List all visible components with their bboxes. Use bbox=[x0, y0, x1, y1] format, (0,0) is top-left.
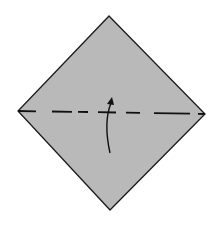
diagram-svg bbox=[0, 0, 222, 240]
origami-diagram bbox=[0, 0, 222, 240]
